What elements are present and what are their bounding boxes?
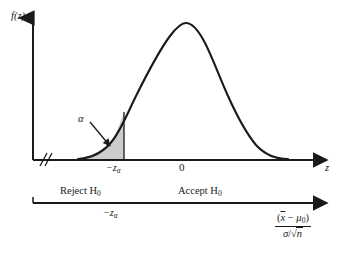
alpha-pointer-arrow [90,122,110,146]
y-axis-label: f(z) [11,11,25,22]
formula-denominator: σ/√n [275,227,311,239]
alpha-label: α [78,114,84,125]
statistics-figure: f(z) z 0 α −zα Reject H0 Accept H0 −zα (… [0,0,340,256]
normal-density-curve [78,23,288,159]
decision-axis-tick-label: −zα [103,208,117,220]
formula-numerator: (x − μ0) [275,212,311,227]
reject-region-label: Reject H0 [60,186,101,198]
x-axis-label: z [325,163,329,174]
test-statistic-formula: (x − μ0) σ/√n [275,212,311,239]
accept-region-label: Accept H0 [178,186,222,198]
x-tick-label-zero: 0 [179,162,185,173]
x-tick-label-critical: −zα [106,163,120,175]
